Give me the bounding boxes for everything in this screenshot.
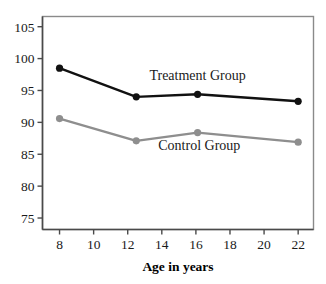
x-axis-title: Age in years — [142, 259, 213, 274]
data-point-marker — [194, 129, 201, 136]
x-axis-tick-label: 12 — [121, 237, 135, 252]
data-point-marker — [295, 139, 302, 146]
data-point-marker — [56, 65, 63, 72]
chart-container: 7580859095100105810121416182022Age in ye… — [0, 0, 326, 284]
series-annotation-label: Treatment Group — [149, 68, 245, 83]
y-axis-tick-label: 90 — [21, 115, 35, 130]
data-point-marker — [56, 115, 63, 122]
data-point-marker — [133, 93, 140, 100]
x-axis-tick-label: 16 — [189, 237, 203, 252]
x-axis-tick-label: 18 — [223, 237, 237, 252]
series-annotation-label: Control Group — [158, 138, 240, 153]
x-axis-tick-label: 22 — [291, 237, 305, 252]
data-point-marker — [295, 98, 302, 105]
data-point-marker — [133, 137, 140, 144]
y-axis-tick-label: 105 — [14, 20, 35, 35]
y-axis-tick-label: 80 — [21, 179, 35, 194]
data-point-marker — [194, 91, 201, 98]
line-chart: 7580859095100105810121416182022Age in ye… — [0, 0, 326, 284]
x-axis-tick-label: 20 — [257, 237, 271, 252]
y-axis-tick-label: 85 — [21, 147, 35, 162]
x-axis-tick-label: 14 — [155, 237, 169, 252]
y-axis-tick-label: 75 — [21, 211, 35, 226]
y-axis-tick-label: 100 — [14, 51, 35, 66]
plot-area-background — [43, 17, 314, 230]
y-axis-tick-label: 95 — [21, 83, 35, 98]
x-axis-tick-label: 8 — [56, 237, 63, 252]
x-axis-tick-label: 10 — [87, 237, 101, 252]
